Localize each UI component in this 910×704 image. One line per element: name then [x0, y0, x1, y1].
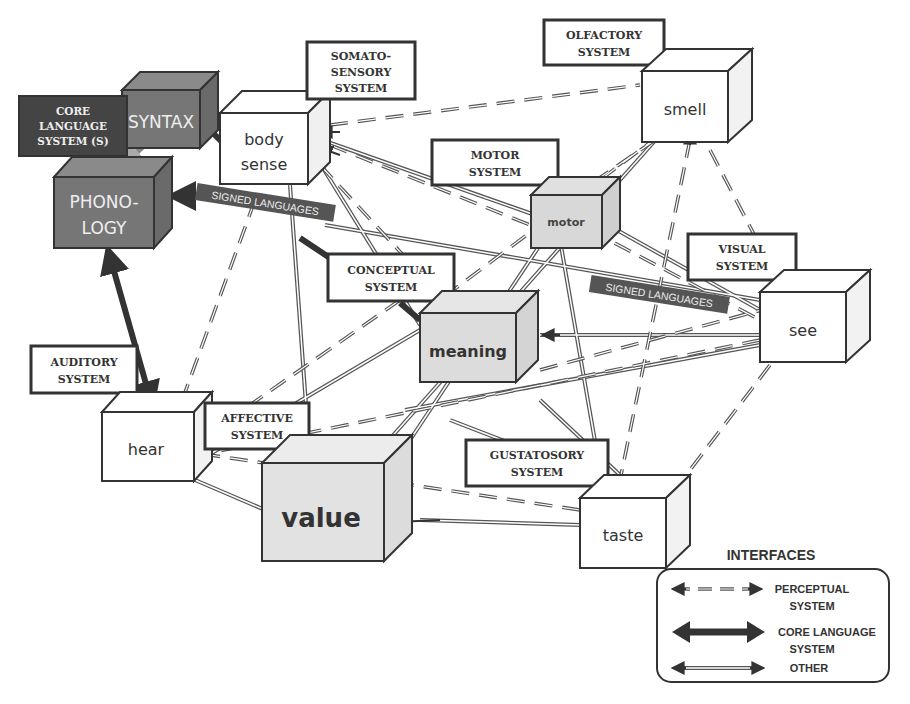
svg-text:SYSTEM: SYSTEM — [231, 429, 284, 442]
syntax-label: SYNTAX — [128, 112, 195, 132]
hear-label: hear — [128, 440, 165, 459]
gustatory-system-label: GUSTATOSORY SYSTEM — [466, 440, 608, 486]
svg-text:OTHER: OTHER — [790, 662, 829, 674]
motor-node[interactable]: motor — [531, 177, 620, 248]
value-label: value — [281, 503, 361, 533]
svg-text:SYSTEM (S): SYSTEM (S) — [37, 135, 108, 147]
svg-text:SOMATO-: SOMATO- — [331, 50, 391, 63]
svg-text:CORE: CORE — [56, 105, 90, 117]
auditory-system-label: AUDITORY SYSTEM — [31, 346, 137, 393]
svg-text:SYSTEM: SYSTEM — [335, 82, 388, 95]
see-node[interactable]: see — [760, 270, 870, 362]
svg-text:LANGUAGE: LANGUAGE — [39, 120, 107, 132]
language-interfaces-diagram: SYNTAX CORE LANGUAGE SYSTEM (S) PHONO- L… — [0, 0, 910, 704]
svg-text:SYSTEM: SYSTEM — [469, 166, 522, 179]
motor-label: motor — [547, 216, 585, 229]
svg-text:sense: sense — [241, 155, 288, 174]
svg-text:GUSTATOSORY: GUSTATOSORY — [490, 449, 585, 462]
svg-text:body: body — [244, 130, 284, 149]
svg-text:SYSTEM: SYSTEM — [58, 373, 111, 386]
svg-text:CONCEPTUAL: CONCEPTUAL — [347, 264, 435, 277]
taste-node[interactable]: taste — [580, 475, 690, 568]
legend: INTERFACES PERCEPTUAL SYSTEM CORE LANGUA… — [657, 547, 889, 682]
meaning-label: meaning — [429, 342, 507, 361]
svg-text:SYSTEM: SYSTEM — [789, 643, 834, 655]
body-sense-node[interactable]: body sense — [220, 91, 330, 184]
svg-text:PHONO-: PHONO- — [69, 192, 138, 212]
motor-system-label: MOTOR SYSTEM — [432, 140, 558, 185]
svg-text:MOTOR: MOTOR — [471, 149, 521, 162]
taste-label: taste — [603, 526, 644, 545]
svg-text:AFFECTIVE: AFFECTIVE — [220, 412, 293, 425]
smell-label: smell — [664, 100, 707, 119]
svg-text:SYSTEM: SYSTEM — [365, 281, 418, 294]
syntax-node[interactable]: SYNTAX — [122, 72, 218, 148]
svg-text:SYSTEM: SYSTEM — [578, 46, 631, 59]
somatosensory-system-label: SOMATO- SENSORY SYSTEM — [307, 42, 415, 99]
svg-text:SENSORY: SENSORY — [331, 66, 392, 79]
see-label: see — [789, 321, 817, 340]
smell-node[interactable]: smell — [642, 49, 752, 142]
core-language-system-label: CORE LANGUAGE SYSTEM (S) — [19, 96, 127, 156]
svg-text:AUDITORY: AUDITORY — [49, 356, 117, 369]
svg-text:PERCEPTUAL: PERCEPTUAL — [775, 583, 850, 595]
value-node[interactable]: value — [262, 435, 412, 561]
phonology-node[interactable]: PHONO- LOGY — [54, 157, 172, 248]
svg-text:SIGNED LANGUAGES: SIGNED LANGUAGES — [211, 189, 320, 218]
svg-text:CORE LANGUAGE: CORE LANGUAGE — [778, 626, 876, 638]
meaning-node[interactable]: meaning — [420, 291, 538, 382]
legend-title: INTERFACES — [727, 547, 816, 563]
olfactory-system-label: OLFACTORY SYSTEM — [544, 20, 664, 65]
svg-text:SYSTEM: SYSTEM — [511, 466, 564, 479]
hear-node[interactable]: hear — [102, 392, 212, 481]
svg-text:SYSTEM: SYSTEM — [716, 260, 769, 273]
svg-text:SYSTEM: SYSTEM — [789, 600, 834, 612]
svg-text:VISUAL: VISUAL — [717, 243, 765, 256]
svg-text:OLFACTORY: OLFACTORY — [566, 29, 642, 42]
conceptual-system-label: CONCEPTUAL SYSTEM — [328, 254, 454, 301]
svg-text:LOGY: LOGY — [82, 218, 128, 238]
signed-languages-banner-left: SIGNED LANGUAGES — [195, 183, 336, 222]
